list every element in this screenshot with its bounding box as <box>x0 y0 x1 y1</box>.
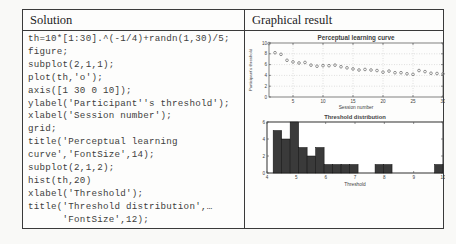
svg-text:6: 6 <box>264 62 267 67</box>
code-line: figure; <box>28 46 240 59</box>
code-line: 'FontSize',12); <box>28 214 240 227</box>
svg-text:9: 9 <box>412 175 415 180</box>
svg-text:4: 4 <box>264 73 267 78</box>
solution-table: Solution Graphical result th=10*[1:30].^… <box>22 9 444 229</box>
page: Solution Graphical result th=10*[1:30].^… <box>0 0 456 244</box>
code-line: plot(th,'o'); <box>28 72 240 85</box>
plot-title: Perceptual learning curve <box>318 34 395 42</box>
svg-text:10: 10 <box>262 41 268 46</box>
table-body-row: th=10*[1:30].^(-1/4)+randn(1,30)/5; figu… <box>23 31 443 228</box>
code-line: subplot(2,1,2); <box>28 162 240 175</box>
perceptual-learning-curve-plot: 510152025300246810Perceptual learning cu… <box>247 32 445 112</box>
svg-text:10: 10 <box>440 175 445 180</box>
svg-text:0: 0 <box>264 95 267 100</box>
graphical-result-cell: 510152025300246810Perceptual learning cu… <box>244 31 443 228</box>
code-line: ylabel('Participant''s threshold'); <box>28 98 240 111</box>
svg-text:5: 5 <box>292 99 295 104</box>
code-line: th=10*[1:30].^(-1/4)+randn(1,30)/5; <box>28 33 240 46</box>
code-line: hist(th,20) <box>28 175 240 188</box>
code-line: curve','FontSize',14); <box>28 149 240 162</box>
svg-text:2: 2 <box>262 154 265 159</box>
svg-text:4: 4 <box>262 137 265 142</box>
svg-text:6: 6 <box>262 120 265 125</box>
code-line: axis([1 30 0 10]); <box>28 85 240 98</box>
code-line: grid; <box>28 123 240 136</box>
svg-text:8: 8 <box>383 175 386 180</box>
svg-text:7: 7 <box>354 175 357 180</box>
column-header-solution: Solution <box>23 10 244 30</box>
code-line: title('Threshold distribution',… <box>28 201 240 214</box>
svg-text:2: 2 <box>264 84 267 89</box>
threshold-distribution-histogram: 456789100246Threshold distributionThresh… <box>247 112 445 190</box>
svg-text:20: 20 <box>380 99 386 104</box>
svg-text:25: 25 <box>410 99 416 104</box>
matlab-code-block: th=10*[1:30].^(-1/4)+randn(1,30)/5; figu… <box>23 31 244 228</box>
svg-text:4: 4 <box>266 175 269 180</box>
svg-text:0: 0 <box>262 171 265 176</box>
svg-text:6: 6 <box>324 175 327 180</box>
svg-text:10: 10 <box>320 99 326 104</box>
code-line: title('Perceptual learning <box>28 136 240 149</box>
y-axis-label: Participant's threshold <box>248 48 253 91</box>
x-axis-label: Session number <box>339 105 374 110</box>
axes: 510152025300246810 <box>262 41 445 104</box>
scatter-points <box>268 42 445 75</box>
column-header-graphical-result: Graphical result <box>244 10 443 30</box>
svg-text:15: 15 <box>350 99 356 104</box>
code-line: xlabel('Session number'); <box>28 110 240 123</box>
svg-text:30: 30 <box>440 99 445 104</box>
table-header-row: Solution Graphical result <box>23 10 443 31</box>
code-line: subplot(2,1,1); <box>28 59 240 72</box>
svg-text:5: 5 <box>295 175 298 180</box>
svg-text:8: 8 <box>264 51 267 56</box>
x-axis-label: Threshold <box>344 182 366 187</box>
plot-title: Threshold distribution <box>324 114 386 120</box>
code-line: xlabel('Threshold'); <box>28 188 240 201</box>
